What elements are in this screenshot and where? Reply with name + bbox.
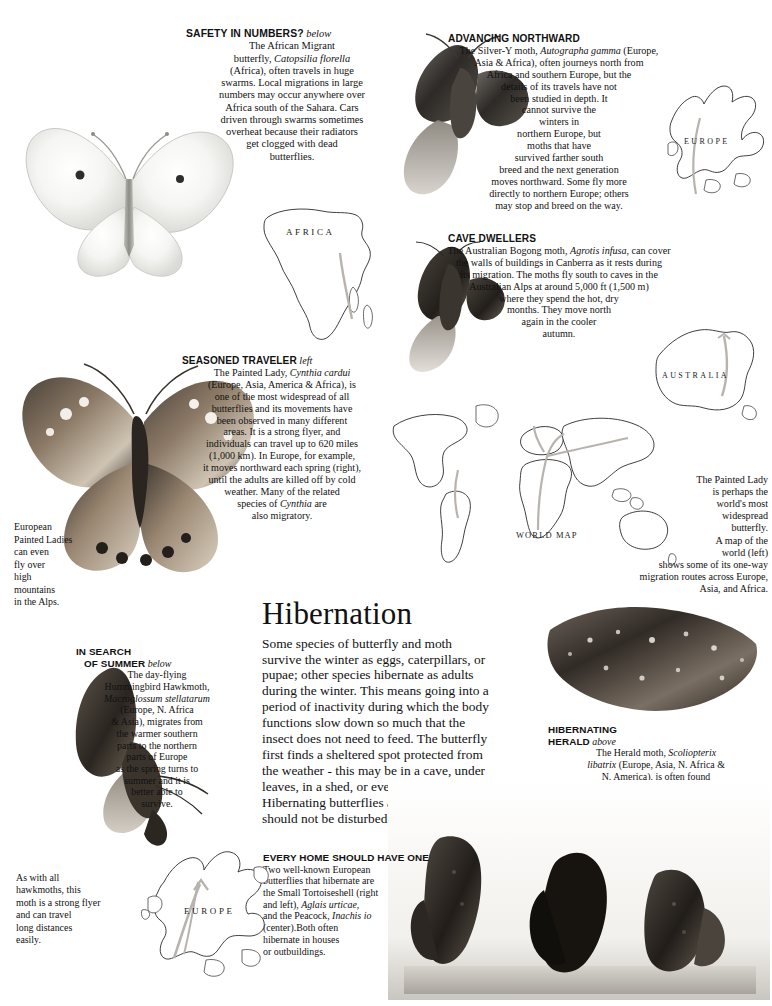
callout-in-search-of-summer: IN SEARCH OF SUMMER below The day-flying… [62,646,252,810]
callout-seasoned-heading-suffix: left [299,355,312,366]
callout-advancing-body: The Silver-Y moth, Autographa gamma (Eur… [434,45,684,212]
europe-map-bottom: EUROPE [138,838,278,988]
herald-moth-photo [546,596,762,726]
callout-hawkmoth-note: As with allhawkmoths, thismoth is a stro… [16,872,146,947]
callout-search-heading-line2: OF SUMMER [84,658,145,669]
callout-seasoned-traveler: SEASONED TRAVELER left The Painted Lady,… [182,355,382,522]
callout-safety-body: The African Migrantbutterfly, Catopsilia… [186,40,398,163]
callout-european-painted-ladies: EuropeanPainted Ladiescan evenfly overhi… [14,521,124,609]
svg-text:EUROPE: EUROPE [184,906,235,916]
callout-safety-in-numbers: SAFETY IN NUMBERS? below The African Mig… [186,28,398,163]
callout-advancing-northward: ADVANCING NORTHWARD The Silver-Y moth, A… [434,33,684,212]
callout-seasoned-heading-text: SEASONED TRAVELER [182,355,297,366]
callout-safety-heading-suffix: below [306,28,331,39]
callout-search-heading-1: IN SEARCH [62,646,252,658]
callout-seasoned-body: The Painted Lady, Cynthia cardui(Europe,… [182,367,382,522]
callout-seasoned-heading: SEASONED TRAVELER left [182,355,382,367]
page-title: Hibernation [262,596,494,633]
callout-herald-heading-suffix: above [592,736,616,747]
europe-map-top: EUROPE [662,72,770,212]
callout-painted-lady-map-note: The Painted Ladyis perhaps theworld's mo… [560,474,768,595]
callout-search-heading-line1: IN SEARCH [76,646,131,657]
svg-text:AFRICA: AFRICA [286,227,335,237]
callout-search-heading-2: OF SUMMER below [62,658,252,670]
callout-every-home: EVERY HOME SHOULD HAVE ONE Two well-know… [263,852,445,957]
africa-map: AFRICA [250,195,400,345]
svg-text:EUROPE: EUROPE [684,137,730,146]
callout-safety-heading-text: SAFETY IN NUMBERS? [186,28,304,39]
encyclopedia-page: SAFETY IN NUMBERS? below The African Mig… [0,0,772,1006]
callout-search-body: The day-flyingHummingbird Hawkmoth,Macro… [62,669,252,809]
callout-hawkmoth-body: As with allhawkmoths, thismoth is a stro… [16,872,146,947]
callout-everyhome-heading-text: EVERY HOME SHOULD HAVE ONE [263,852,429,863]
callout-safety-heading: SAFETY IN NUMBERS? below [186,28,398,40]
hibernating-butterflies-photo [388,780,770,1000]
svg-text:AUSTRALIA: AUSTRALIA [662,371,729,380]
callout-advancing-heading: ADVANCING NORTHWARD [434,33,684,45]
callout-everyhome-body: Two well-known Europeanbutterflies that … [263,864,445,958]
callout-cave-heading: CAVE DWELLERS [434,233,684,245]
callout-cave-heading-text: CAVE DWELLERS [448,233,536,244]
callout-cave-dwellers: CAVE DWELLERS The Australian Bogong moth… [434,233,684,340]
callout-cave-body: The Australian Bogong moth, Agrotis infu… [434,245,684,340]
callout-advancing-heading-text: ADVANCING NORTHWARD [448,33,580,44]
callout-epl-body: EuropeanPainted Ladiescan evenfly overhi… [14,521,124,609]
callout-plm-body: The Painted Ladyis perhaps theworld's mo… [560,474,768,595]
callout-herald-heading-line2: HERALD [548,736,590,747]
callout-herald-heading-2: HERALD above [548,736,764,748]
callout-herald-heading-1: HIBERNATING [548,724,764,736]
callout-everyhome-heading: EVERY HOME SHOULD HAVE ONE [263,852,445,864]
callout-herald-heading-line1: HIBERNATING [548,724,617,735]
callout-search-heading-suffix: below [148,658,172,669]
